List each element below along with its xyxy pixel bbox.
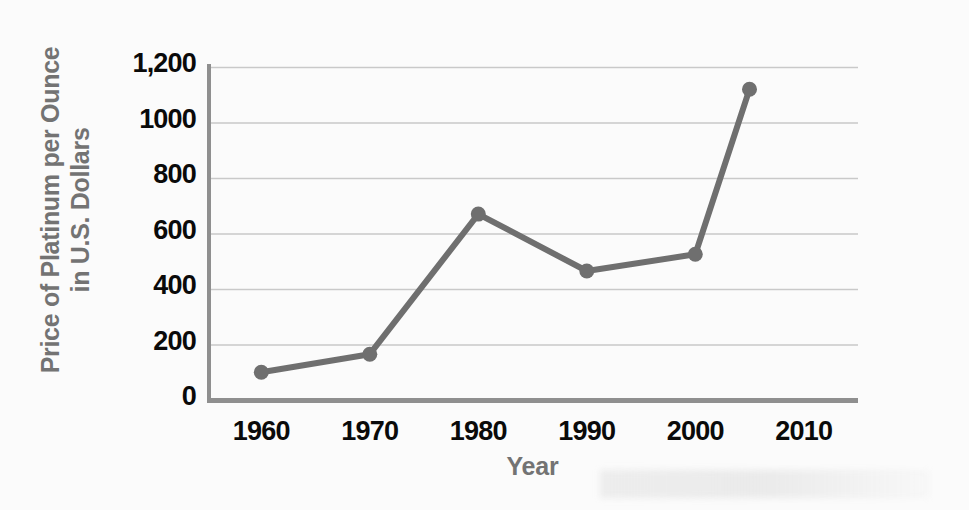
y-axis-tick-label: 1,200 — [108, 48, 196, 79]
y-axis-tick-label: 0 — [108, 381, 196, 412]
data-series-line — [261, 89, 749, 372]
data-point-marker — [742, 82, 757, 97]
plot-area — [207, 64, 858, 404]
x-axis-tick-label: 2010 — [749, 416, 859, 447]
y-axis-tick-label: 800 — [108, 159, 196, 190]
y-axis-title-line2: in U.S. Dollars — [65, 47, 95, 374]
line-chart-figure: Price of Platinum per Ounce in U.S. Doll… — [0, 0, 969, 510]
x-axis-title: Year — [207, 452, 858, 481]
axis-lines — [207, 64, 858, 401]
gridlines — [210, 68, 858, 346]
x-axis-tick-label: 2000 — [640, 416, 750, 447]
data-point-marker — [254, 365, 269, 380]
y-axis-tick-label: 600 — [108, 215, 196, 246]
data-point-marker — [579, 264, 594, 279]
x-axis-tick-label: 1970 — [315, 416, 425, 447]
data-point-marker — [471, 207, 486, 222]
data-point-marker — [688, 247, 703, 262]
x-axis-tick-label: 1990 — [532, 416, 642, 447]
y-axis-title-line1: Price of Platinum per Ounce — [35, 47, 65, 374]
y-axis-tick-label: 200 — [108, 326, 196, 357]
x-axis-tick-label: 1960 — [206, 416, 316, 447]
y-axis-tick-label: 1000 — [108, 104, 196, 135]
data-point-marker — [362, 347, 377, 362]
x-axis-tick-label: 1980 — [423, 416, 533, 447]
y-axis-tick-label: 400 — [108, 270, 196, 301]
y-axis-tick-labels: 1,20010008006004002000 — [108, 0, 196, 420]
series-polyline — [261, 89, 749, 372]
plot-svg — [207, 64, 858, 404]
